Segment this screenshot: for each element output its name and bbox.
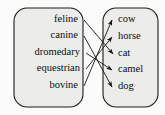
node-label-cow: cow: [118, 13, 136, 24]
mapping-diagram: feline canine dromedary equestrian bovin…: [0, 0, 165, 115]
node-label-dromedary: dromedary: [35, 46, 81, 57]
node-label-bovine: bovine: [49, 79, 78, 90]
node-label-equestrian: equestrian: [37, 62, 81, 73]
node-label-canine: canine: [51, 29, 79, 40]
diagram-canvas: feline canine dromedary equestrian bovin…: [0, 0, 165, 115]
node-label-camel: camel: [118, 63, 143, 74]
node-label-feline: feline: [54, 13, 78, 24]
node-label-horse: horse: [118, 30, 141, 41]
node-label-cat: cat: [118, 47, 130, 58]
node-label-dog: dog: [118, 80, 135, 91]
